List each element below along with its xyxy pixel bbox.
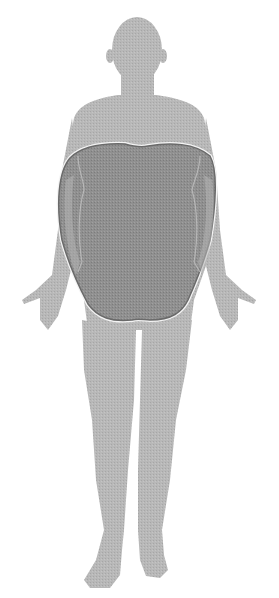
figure-canvas bbox=[0, 0, 279, 598]
body-illustration bbox=[0, 0, 279, 598]
apple-shape-overlay bbox=[59, 144, 216, 321]
